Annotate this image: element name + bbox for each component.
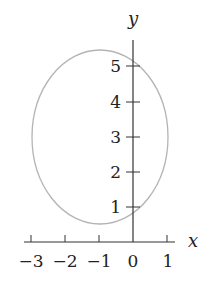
x-tick-label: 0: [128, 251, 139, 271]
x-tick-label: −3: [18, 251, 43, 271]
x-tick-label: −1: [86, 251, 111, 271]
y-tick-label: 2: [110, 162, 121, 182]
chart: −3 −2 −1 0 1 1 2 3 4 5 x y: [0, 0, 204, 295]
x-ticks: [31, 235, 167, 242]
x-tick-label: −2: [52, 251, 77, 271]
x-tick-label: 1: [163, 251, 174, 271]
y-tick-label: 4: [110, 92, 121, 112]
ellipse-curve: [32, 50, 168, 224]
y-axis-label: y: [127, 8, 139, 29]
y-tick-label: 3: [110, 127, 121, 147]
x-axis-label: x: [188, 230, 198, 251]
y-tick-label: 5: [110, 56, 121, 76]
y-tick-label: 1: [110, 197, 121, 217]
